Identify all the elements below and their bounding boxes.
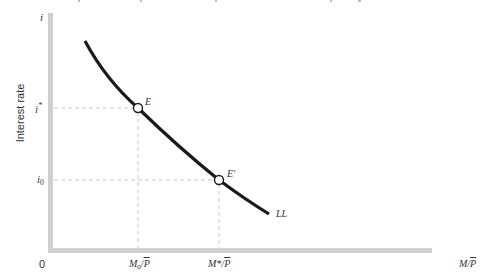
- point-e-label: E: [145, 96, 151, 107]
- curve-label-ll: LL: [276, 208, 287, 219]
- tick-label-i0: i0: [37, 173, 44, 187]
- point-e-prime-label: E': [227, 168, 235, 179]
- y-axis: [48, 13, 53, 253]
- tick-label-istar: i*: [35, 101, 42, 115]
- point-e: [134, 104, 143, 113]
- diagram-svg: [0, 0, 488, 279]
- y-axis-symbol: i: [40, 11, 43, 23]
- y-axis-title: Interest rate: [14, 83, 26, 143]
- origin-label: 0: [39, 258, 45, 270]
- x-axis: [48, 248, 432, 253]
- tick-label-mstar-over-p: M*/P: [208, 258, 230, 269]
- ll-curve: [85, 41, 269, 214]
- tick-label-m0-over-p: M0/P: [129, 258, 150, 271]
- x-axis-title: M/P: [459, 258, 476, 269]
- cropped-caption-fragments: [78, 0, 361, 2]
- point-e-prime: [215, 176, 224, 185]
- guide-lines: [54, 108, 219, 248]
- diagram-canvas: i Interest rate i* i0 0 M0/P M*/P M/P E …: [0, 0, 488, 279]
